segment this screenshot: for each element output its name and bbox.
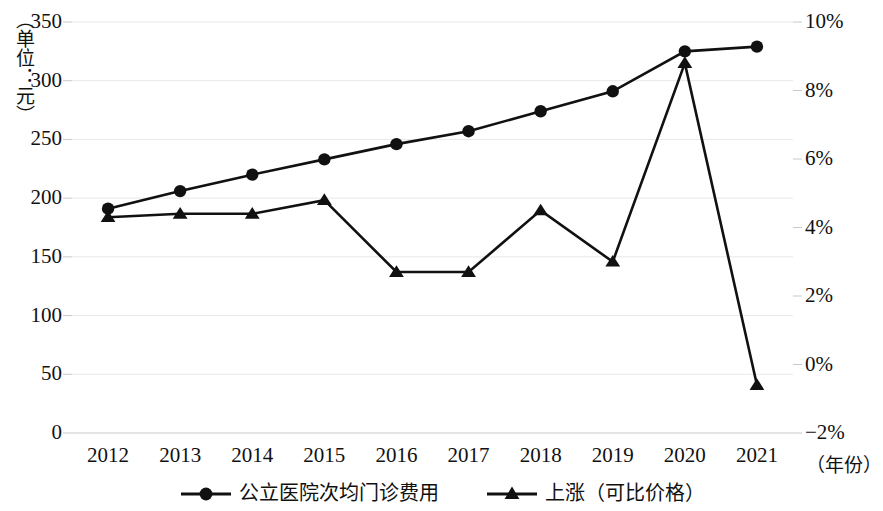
- data-point-marker[interactable]: [246, 168, 258, 180]
- chart-container: （单位：元） （年份） 350300250200150100500 10%8%6…: [0, 0, 883, 511]
- data-point-marker[interactable]: [533, 204, 548, 216]
- circle-marker-icon: [179, 482, 233, 504]
- data-point-marker[interactable]: [534, 105, 546, 117]
- data-point-marker[interactable]: [390, 138, 402, 150]
- triangle-marker-icon: [485, 482, 539, 504]
- series-line: [108, 47, 757, 209]
- data-point-marker[interactable]: [677, 56, 692, 68]
- chart-legend: 公立医院次均门诊费用上涨（可比价格）: [0, 482, 883, 504]
- legend-label: 公立医院次均门诊费用: [239, 482, 439, 504]
- data-point-marker[interactable]: [751, 40, 763, 52]
- data-point-marker[interactable]: [317, 193, 332, 205]
- series-line: [108, 63, 757, 385]
- data-point-marker[interactable]: [750, 378, 765, 390]
- data-point-marker[interactable]: [174, 185, 186, 197]
- legend-item[interactable]: 上涨（可比价格）: [485, 482, 705, 504]
- data-point-marker[interactable]: [679, 45, 691, 57]
- data-point-marker[interactable]: [318, 153, 330, 165]
- plot-area: [0, 0, 883, 511]
- legend-item[interactable]: 公立医院次均门诊费用: [179, 482, 439, 504]
- legend-label: 上涨（可比价格）: [545, 482, 705, 504]
- data-point-marker[interactable]: [462, 125, 474, 137]
- data-point-marker[interactable]: [607, 85, 619, 97]
